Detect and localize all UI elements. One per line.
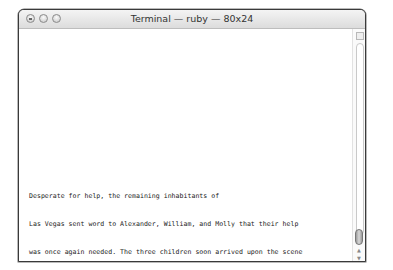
scroll-up-icon[interactable]: ▲ xyxy=(357,247,361,253)
split-pane-icon[interactable] xyxy=(356,32,364,40)
title-bar[interactable]: Terminal — ruby — 80x24 xyxy=(19,10,365,29)
terminal-window: Terminal — ruby — 80x24 Desperate for he… xyxy=(18,9,366,262)
terminal-output: Desperate for help, the remaining inhabi… xyxy=(29,174,318,262)
scroll-thumb[interactable] xyxy=(355,229,363,245)
scroll-track[interactable] xyxy=(356,43,364,235)
terminal-line: was once again needed. The three childre… xyxy=(29,248,318,257)
vertical-scrollbar[interactable]: ▲ ▼ xyxy=(352,29,365,261)
terminal-line: Desperate for help, the remaining inhabi… xyxy=(29,192,318,201)
terminal-line: Las Vegas sent word to Alexander, Willia… xyxy=(29,220,318,229)
terminal-content[interactable]: Desperate for help, the remaining inhabi… xyxy=(19,29,353,261)
scroll-down-icon[interactable]: ▼ xyxy=(357,255,361,261)
window-title: Terminal — ruby — 80x24 xyxy=(19,13,365,24)
